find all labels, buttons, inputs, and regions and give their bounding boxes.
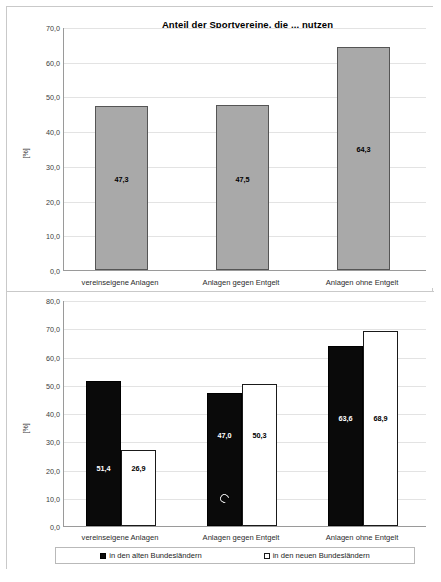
gridline [64, 301, 426, 302]
scan-artifact-icon [218, 492, 231, 505]
bar-anlagen-gegen-entgelt[interactable]: 47,5 [216, 105, 269, 270]
bar-anlagen-ohne-entgelt[interactable]: 64,3 [337, 47, 390, 270]
legend-swatch-black-icon [100, 553, 106, 559]
y-tick-label: 10,0 [46, 232, 60, 241]
bar-alt-anlagen-gegen-entgelt[interactable]: 47,0 [207, 393, 242, 526]
y-tick-label: 50,0 [46, 381, 60, 390]
y-tick-label: 80,0 [46, 297, 60, 306]
category-label-anlagen-gegen-entgelt: Anlagen gegen Entgelt [203, 533, 280, 542]
category-label-anlagen-gegen-entgelt: Anlagen gegen Entgelt [203, 278, 280, 287]
plot-area-bottom: 80,0 70,0 60,0 50,0 40,0 30,0 20,0 10,0 … [63, 301, 426, 527]
clipped-caption [10, 572, 310, 581]
legend-item-neue-bundeslaender[interactable]: in den neuen Bundesländern [264, 551, 370, 560]
y-tick-label: 40,0 [46, 128, 60, 137]
y-tick-label: 50,0 [46, 93, 60, 102]
bar-neu-anlagen-gegen-entgelt[interactable]: 50,3 [242, 384, 277, 526]
legend-swatch-white-icon [264, 553, 270, 559]
bar-value-label: 47,0 [208, 431, 241, 440]
bar-value-label: 26,9 [122, 464, 155, 473]
y-tick-label: 30,0 [46, 162, 60, 171]
y-tick-label: 10,0 [46, 494, 60, 503]
y-tick-label: 0,0 [50, 267, 60, 276]
bar-value-label: 47,3 [96, 175, 147, 184]
legend: in den alten Bundesländern in den neuen … [55, 547, 415, 564]
legend-label: in den alten Bundesländern [109, 551, 201, 560]
y-tick-label: 60,0 [46, 58, 60, 67]
category-label-vereinseigene-anlagen: vereinseigene Anlagen [82, 533, 159, 542]
bar-neu-anlagen-ohne-entgelt[interactable]: 68,9 [363, 331, 398, 526]
y-tick-label: 0,0 [50, 523, 60, 532]
bar-value-label: 64,3 [338, 145, 389, 154]
chart-panel-top: Anteil der Sportvereine, die ... nutzen … [7, 7, 434, 288]
y-tick-label: 20,0 [46, 466, 60, 475]
gridline [64, 329, 426, 330]
bar-value-label: 47,5 [217, 175, 268, 184]
legend-label: in den neuen Bundesländern [273, 551, 370, 560]
bar-vereinseigene-anlagen[interactable]: 47,3 [95, 106, 148, 270]
y-axis-label-bottom: [%] [22, 414, 29, 434]
bar-value-label: 68,9 [364, 414, 397, 423]
y-tick-label: 20,0 [46, 197, 60, 206]
y-tick-label: 60,0 [46, 353, 60, 362]
y-tick-label: 40,0 [46, 410, 60, 419]
category-label-anlagen-ohne-entgelt: Anlagen ohne Entgelt [326, 278, 399, 287]
gridline [64, 28, 426, 29]
bar-value-label: 51,4 [87, 464, 120, 473]
y-tick-label: 70,0 [46, 325, 60, 334]
bar-alt-vereinseigene-anlagen[interactable]: 51,4 [86, 381, 121, 526]
bar-value-label: 63,6 [329, 414, 362, 423]
chart-panel-bottom: Anteil der Sportvereine, die ... nutzen … [7, 291, 434, 570]
y-tick-label: 30,0 [46, 438, 60, 447]
y-axis-label-top: [%] [22, 139, 29, 159]
bar-neu-vereinseigene-anlagen[interactable]: 26,9 [121, 450, 156, 526]
category-label-anlagen-ohne-entgelt: Anlagen ohne Entgelt [326, 533, 399, 542]
bar-alt-anlagen-ohne-entgelt[interactable]: 63,6 [328, 346, 363, 526]
page-frame: Anteil der Sportvereine, die ... nutzen … [6, 6, 433, 569]
category-label-vereinseigene-anlagen: vereinseigene Anlagen [82, 278, 159, 287]
bar-value-label: 50,3 [243, 431, 276, 440]
y-tick-label: 70,0 [46, 24, 60, 33]
legend-item-alte-bundeslaender[interactable]: in den alten Bundesländern [100, 551, 201, 560]
plot-area-top: 70,0 60,0 50,0 40,0 30,0 20,0 10,0 0,0 4… [63, 28, 426, 271]
